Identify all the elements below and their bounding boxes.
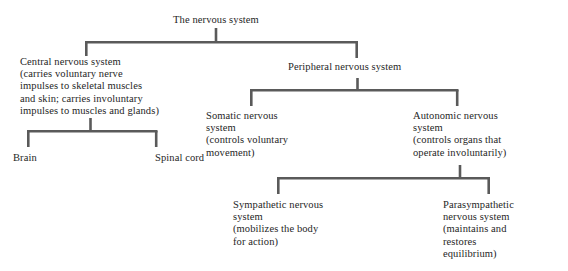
- node-central-nervous-system: Central nervous system (carries voluntar…: [20, 56, 210, 117]
- node-brain: Brain: [13, 152, 63, 164]
- node-peripheral-nervous-system: Peripheral nervous system: [288, 61, 438, 73]
- nervous-system-diagram: The nervous system Central nervous syste…: [0, 0, 568, 271]
- node-sympathetic-nervous-system: Sympathetic nervous system (mobilizes th…: [233, 199, 368, 248]
- node-root: The nervous system: [150, 14, 282, 26]
- node-somatic-nervous-system: Somatic nervous system (controls volunta…: [206, 110, 326, 159]
- node-parasympathetic-nervous-system: Parasympathetic nervous system (maintain…: [443, 199, 553, 260]
- node-autonomic-nervous-system: Autonomic nervous system (controls organ…: [413, 110, 543, 159]
